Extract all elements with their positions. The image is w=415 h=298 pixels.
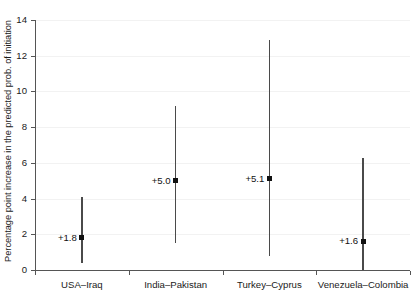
x-tick-label: USA–Iraq xyxy=(35,279,129,291)
y-tick-label: 4 xyxy=(7,194,27,204)
error-bar xyxy=(175,106,176,244)
x-tick-label: Turkey–Cyprus xyxy=(223,279,317,291)
x-axis-line xyxy=(35,270,410,271)
y-tick-label: 12 xyxy=(7,51,27,61)
data-point-label: +1.8 xyxy=(24,233,77,243)
x-tick xyxy=(129,271,130,275)
gridline xyxy=(36,20,410,21)
gridline xyxy=(36,163,410,164)
error-bar xyxy=(269,40,270,256)
gridline xyxy=(36,199,410,200)
x-tick xyxy=(316,271,317,275)
y-tick-label: 14 xyxy=(7,15,27,25)
data-point-marker xyxy=(173,178,178,183)
gridline xyxy=(36,127,410,128)
gridline xyxy=(36,56,410,57)
data-point-label: +5.0 xyxy=(118,176,171,186)
y-tick-label: 6 xyxy=(7,158,27,168)
data-point-label: +5.1 xyxy=(211,174,264,184)
data-point-label: +1.6 xyxy=(305,236,358,246)
error-bar xyxy=(81,197,82,263)
y-axis-title: Percentage point increase in the predict… xyxy=(0,0,16,290)
x-tick xyxy=(223,271,224,275)
gridline xyxy=(36,91,410,92)
y-tick-label: 0 xyxy=(7,265,27,275)
x-tick xyxy=(410,271,411,275)
x-tick-label: Venezuela–Colombia xyxy=(316,279,410,291)
x-tick xyxy=(35,271,36,275)
y-axis-line xyxy=(35,20,36,270)
chart-figure: Percentage point increase in the predict… xyxy=(0,0,415,298)
data-point-marker xyxy=(79,235,84,240)
data-point-marker xyxy=(361,239,366,244)
data-point-marker xyxy=(267,176,272,181)
y-tick-label: 8 xyxy=(7,122,27,132)
plot-area: 02468101214 USA–IraqIndia–PakistanTurkey… xyxy=(35,15,410,270)
y-tick-label: 10 xyxy=(7,86,27,96)
x-tick-label: India–Pakistan xyxy=(129,279,223,291)
error-bar xyxy=(362,158,363,271)
